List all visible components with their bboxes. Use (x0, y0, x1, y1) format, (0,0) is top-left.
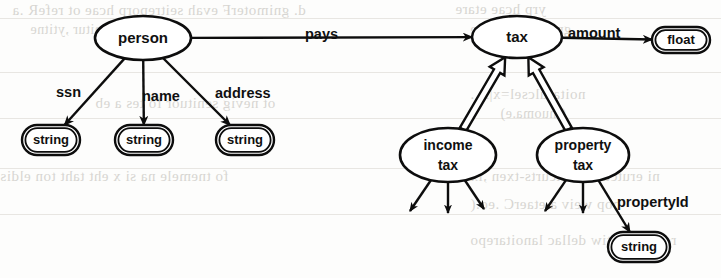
edge-label-pays: pays (305, 26, 338, 42)
node-label: person (118, 29, 168, 46)
node-label: string (621, 239, 657, 254)
node-string1[interactable]: string (22, 125, 80, 155)
node-label: tax (438, 157, 458, 173)
node-string3[interactable]: string (216, 125, 274, 155)
node-string4[interactable]: string (608, 232, 670, 262)
node-float[interactable]: float (652, 27, 710, 53)
diagram-canvas: d. gnimoterF evah seitreporp hcae ot ref… (0, 0, 721, 278)
node-string2[interactable]: string (115, 125, 173, 155)
edge-label-name: name (142, 88, 180, 104)
dangling-edge-incometax-c[interactable] (465, 180, 484, 209)
edge-label-amount: amount (568, 25, 621, 41)
node-tax[interactable]: tax (472, 16, 562, 58)
node-label: tax (573, 157, 593, 173)
node-label: property (555, 137, 612, 153)
edge-label-ssn: ssn (56, 84, 81, 100)
node-label: string (33, 132, 69, 147)
node-label: string (227, 132, 263, 147)
edge-label-address: address (215, 85, 271, 101)
dangling-edge-propertytax-a[interactable] (545, 180, 566, 211)
nodes-layer: persontaxincometaxpropertytaxfloatstring… (22, 16, 710, 262)
isa-edge-isa-income[interactable] (460, 57, 505, 131)
type-graph: persontaxincometaxpropertytaxfloatstring… (0, 0, 721, 278)
isa-edge-isa-property[interactable] (528, 57, 571, 131)
node-propertytax[interactable]: propertytax (537, 128, 629, 182)
node-label: tax (506, 28, 528, 45)
node-label: float (667, 32, 695, 47)
node-label: income (423, 137, 472, 153)
dangling-edge-incometax-a[interactable] (410, 180, 431, 211)
node-label: string (126, 132, 162, 147)
edge-label-propertyid: propertyId (617, 194, 689, 210)
node-incometax[interactable]: incometax (400, 128, 496, 182)
node-person[interactable]: person (95, 16, 191, 60)
